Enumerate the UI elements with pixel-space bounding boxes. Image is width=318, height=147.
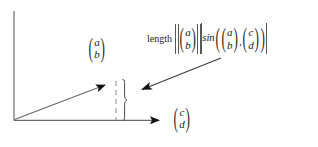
vector-entry-top: a (227, 26, 233, 38)
paren-close: ) (186, 105, 190, 133)
paren-open: ( (180, 25, 184, 53)
height-brace (123, 80, 128, 121)
paren-close: ) (255, 25, 259, 53)
column-vector-cd: ( c d ) (173, 106, 191, 131)
paren-open: ( (243, 25, 247, 53)
vector-entries: c d (248, 26, 255, 51)
vector-entry-top: c (179, 106, 184, 118)
vector-ab-label: ( a b ) (88, 36, 106, 61)
vector-entry-bottom: b (94, 48, 100, 60)
sin-second-column-vector: ( c d ) (242, 26, 260, 51)
vector-entries: a b (94, 36, 101, 61)
vector-entries: a b (226, 26, 233, 51)
vector-cd-label: ( c d ) (173, 106, 191, 131)
sin-paren-open: ( (216, 25, 220, 53)
paren-close: ) (101, 35, 105, 63)
norm-bar-right-inner (197, 24, 198, 54)
vector-entry-top: c (249, 26, 254, 38)
length-formula-annotation: length ( a b ) sin ( ( (147, 23, 267, 54)
norm-column-vector: ( a b ) (179, 26, 197, 51)
sin-word: sin (202, 33, 214, 44)
paren-close: ) (234, 25, 238, 53)
sin-paren-close: ) (261, 25, 265, 53)
abs-bar-right (266, 23, 267, 54)
callout-pointer-arrow (142, 58, 221, 90)
paren-open: ( (221, 25, 225, 53)
absolute-sine-expression: sin ( ( a b ) , ( c d ) ) (201, 23, 267, 54)
norm-bar-left-outer (175, 24, 176, 54)
vector-entries: a b (185, 26, 192, 51)
vector-entry-bottom: d (248, 39, 254, 51)
vector-ab-arrow (15, 85, 106, 120)
length-word: length (147, 34, 172, 44)
paren-open: ( (89, 35, 93, 63)
vector-entry-bottom: d (179, 118, 185, 130)
vector-entries: c d (179, 106, 186, 131)
vector-entry-bottom: b (227, 39, 233, 51)
vector-entry-top: a (185, 26, 191, 38)
vector-entry-bottom: b (185, 39, 191, 51)
column-vector-ab: ( a b ) (88, 36, 106, 61)
norm-expression: ( a b ) (175, 24, 201, 54)
paren-open: ( (174, 105, 178, 133)
paren-close: ) (192, 25, 196, 53)
vector-entry-top: a (94, 36, 100, 48)
figure-canvas: length ( a b ) sin ( ( (0, 0, 318, 147)
sin-first-column-vector: ( a b ) (221, 26, 239, 51)
